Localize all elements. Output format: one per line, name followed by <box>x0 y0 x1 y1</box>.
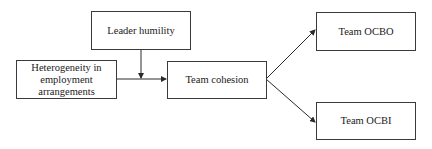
node-team-ocbo: Team OCBO <box>316 12 416 51</box>
node-heterogeneity: Heterogeneity in employment arrangements <box>16 60 117 99</box>
arrow-cohesion-to-ocbo <box>266 30 315 79</box>
node-label: Team OCBI <box>341 115 392 127</box>
node-label: Team cohesion <box>185 74 248 86</box>
node-team-cohesion: Team cohesion <box>167 61 267 99</box>
node-label: Heterogeneity in employment arrangements <box>21 62 112 98</box>
node-leader-humility: Leader humility <box>91 11 191 50</box>
arrow-cohesion-to-ocbi <box>266 79 315 122</box>
node-team-ocbi: Team OCBI <box>316 102 416 140</box>
node-label: Leader humility <box>107 25 174 37</box>
node-label: Team OCBO <box>339 26 394 38</box>
